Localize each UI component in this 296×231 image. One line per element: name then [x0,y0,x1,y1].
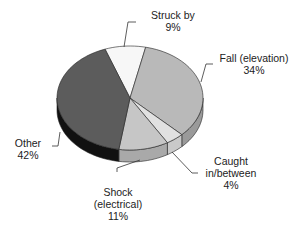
label-caught: Caught in/between 4% [198,155,264,191]
label-fall-name: Fall (elevation) [212,52,296,64]
leader-struck-by [124,22,136,47]
leader-caught [172,152,198,173]
label-struck-by: Struck by 9% [143,9,203,33]
label-fall-value: 34% [212,64,296,76]
label-other-value: 42% [6,149,50,161]
pie-chart [0,0,296,231]
label-fall: Fall (elevation) 34% [212,52,296,76]
pie-slices [57,46,203,150]
label-other: Other 42% [6,137,50,161]
label-shock: Shock (electrical) 11% [88,186,148,222]
label-other-name: Other [6,137,50,149]
label-shock-name-1: Shock [88,186,148,198]
label-shock-name-2: (electrical) [88,198,148,210]
label-struck-by-value: 9% [143,21,203,33]
label-caught-name-1: Caught [198,155,264,167]
label-struck-by-name: Struck by [143,9,203,21]
label-shock-value: 11% [88,210,148,222]
label-caught-value: 4% [198,179,264,191]
leader-other [52,132,60,146]
label-caught-name-2: in/between [198,167,264,179]
